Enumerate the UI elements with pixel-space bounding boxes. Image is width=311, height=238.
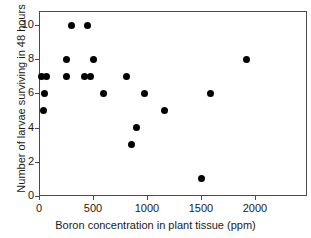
x-tick-2000 <box>255 196 256 200</box>
x-tick-label-1500: 1500 <box>178 203 224 214</box>
plot-area-frame <box>39 11 307 196</box>
scatter-plot-figure: 0246810 0500100015002000 Boron concentra… <box>0 0 311 238</box>
y-tick-10 <box>35 25 39 26</box>
x-tick-0 <box>39 196 40 200</box>
x-tick-1000 <box>147 196 148 200</box>
y-axis-label: Number of larvae surviving in 48 hours <box>16 0 27 199</box>
y-tick-2 <box>35 162 39 163</box>
x-tick-500 <box>93 196 94 200</box>
y-tick-6 <box>35 93 39 94</box>
x-tick-1500 <box>201 196 202 200</box>
x-tick-label-1000: 1000 <box>124 203 170 214</box>
x-tick-label-500: 500 <box>70 203 116 214</box>
y-tick-8 <box>35 59 39 60</box>
y-tick-4 <box>35 128 39 129</box>
x-axis-label: Boron concentration in plant tissue (ppm… <box>0 220 311 231</box>
x-tick-label-0: 0 <box>16 203 62 214</box>
x-tick-label-2000: 2000 <box>232 203 278 214</box>
